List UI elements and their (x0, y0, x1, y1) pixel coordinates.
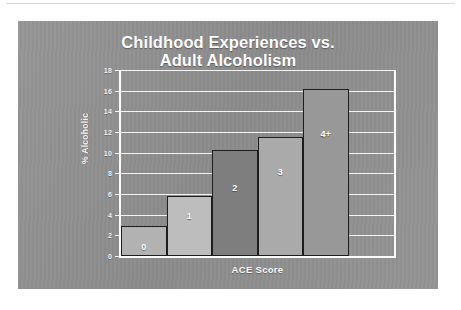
bar-1: 1 (167, 196, 213, 256)
y-tick-mark (115, 91, 120, 92)
plot-right-border (394, 70, 396, 258)
y-tick-label: 16 (104, 87, 112, 94)
y-tick-label: 0 (108, 253, 112, 260)
bar-3: 3 (258, 137, 304, 256)
bar-label-3: 3 (259, 167, 303, 177)
slide-canvas: Childhood Experiences vs. Adult Alcoholi… (18, 21, 438, 289)
bar-label-0: 0 (122, 242, 166, 252)
y-tick-mark (115, 194, 120, 195)
page-top-rule (6, 3, 455, 4)
y-tick-label: 10 (104, 149, 112, 156)
y-tick-label: 4 (108, 211, 112, 218)
y-tick-mark (115, 256, 120, 257)
y-tick-label: 14 (104, 108, 112, 115)
bar-2: 2 (212, 150, 258, 256)
y-tick-label: 18 (104, 67, 112, 74)
bar-label-4+: 4+ (303, 129, 349, 139)
y-axis-title: % Alcoholic (80, 113, 90, 164)
y-tick-mark (115, 132, 120, 133)
y-tick-label: 2 (108, 232, 112, 239)
y-tick-mark (115, 173, 120, 174)
y-tick-mark (115, 215, 120, 216)
bar-label-1: 1 (168, 211, 212, 221)
bar-label-2: 2 (213, 183, 257, 193)
x-axis-line (119, 256, 396, 258)
y-tick-mark (115, 153, 120, 154)
y-tick-label: 12 (104, 129, 112, 136)
x-axis-title: ACE Score (119, 264, 396, 275)
chart-title: Childhood Experiences vs. Adult Alcoholi… (18, 33, 438, 69)
bar-0: 0 (121, 226, 167, 256)
bar-series: 01234+ (121, 70, 394, 256)
y-tick-mark (115, 235, 120, 236)
bar-4+ (303, 89, 349, 256)
plot-area: 024681012141618 01234+ (119, 70, 396, 258)
y-tick-label: 8 (108, 170, 112, 177)
y-tick-label: 6 (108, 191, 112, 198)
y-tick-mark (115, 111, 120, 112)
y-tick-mark (115, 70, 120, 71)
